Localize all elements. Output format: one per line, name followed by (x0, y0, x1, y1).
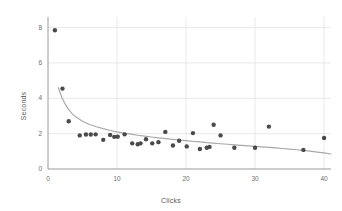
data-point (301, 148, 305, 152)
data-point (93, 132, 97, 136)
data-point (267, 124, 271, 128)
fitted-curve (58, 88, 331, 154)
data-point (130, 141, 134, 145)
data-point (211, 123, 215, 127)
data-point (53, 28, 57, 32)
data-point (232, 146, 236, 150)
data-point (253, 146, 257, 150)
y-tick-label: 8 (28, 24, 42, 31)
x-tick-label: 40 (320, 176, 327, 183)
x-axis-title: Clicks (161, 197, 181, 204)
data-point (163, 130, 167, 134)
x-tick-label: 30 (251, 176, 258, 183)
y-tick-label: 0 (28, 166, 42, 173)
trend-curve (58, 88, 331, 154)
data-point (218, 133, 222, 137)
plot-area (0, 0, 342, 211)
data-point (207, 145, 211, 149)
y-axis-title: Seconds (20, 91, 27, 120)
data-point (322, 136, 326, 140)
data-point (144, 137, 148, 141)
data-point (78, 133, 82, 137)
data-point (108, 133, 112, 137)
data-point (171, 143, 175, 147)
y-tick-label: 4 (28, 95, 42, 102)
data-point (138, 141, 142, 145)
axis-lines (48, 17, 331, 169)
data-point (185, 144, 189, 148)
data-point (116, 134, 120, 138)
data-point (177, 139, 181, 143)
data-point (101, 138, 105, 142)
y-tick-label: 6 (28, 60, 42, 67)
data-point (60, 86, 64, 90)
data-point (191, 131, 195, 135)
data-point (156, 140, 160, 144)
data-point (67, 119, 71, 123)
data-point (198, 147, 202, 151)
x-tick-label: 20 (182, 176, 189, 183)
scatter-chart: 02468010203040 Clicks Seconds (0, 0, 342, 211)
y-tick-label: 2 (28, 130, 42, 137)
data-point (84, 132, 88, 136)
x-tick-label: 0 (46, 176, 50, 183)
data-point (122, 132, 126, 136)
grid-lines (48, 17, 331, 169)
x-tick-label: 10 (113, 176, 120, 183)
data-point (150, 141, 154, 145)
data-point (89, 132, 93, 136)
